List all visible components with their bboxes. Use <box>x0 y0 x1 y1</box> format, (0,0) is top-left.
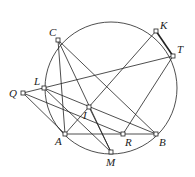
point-c <box>56 38 60 42</box>
segment-qr <box>23 93 123 134</box>
label-t: T <box>177 43 184 55</box>
label-c: C <box>49 26 57 38</box>
label-k: K <box>159 19 168 31</box>
point-i <box>87 105 91 109</box>
label-b: B <box>159 136 166 148</box>
points <box>21 29 175 154</box>
segment-rt <box>123 56 173 134</box>
label-l: L <box>33 75 40 87</box>
label-a: A <box>54 135 62 147</box>
geometry-diagram: CKTLQIARBM <box>0 0 195 177</box>
point-k <box>154 29 158 33</box>
point-m <box>109 150 113 154</box>
segment-ca <box>58 40 65 134</box>
label-q: Q <box>9 87 17 99</box>
label-m: M <box>105 156 116 168</box>
segment-qa <box>23 93 65 134</box>
point-a <box>63 132 67 136</box>
segments <box>23 31 173 152</box>
label-r: R <box>124 136 132 148</box>
point-b <box>154 132 158 136</box>
point-l <box>42 86 46 90</box>
point-t <box>171 54 175 58</box>
segment-ak <box>65 31 156 134</box>
point-q <box>21 91 25 95</box>
segment-kt <box>156 31 173 56</box>
